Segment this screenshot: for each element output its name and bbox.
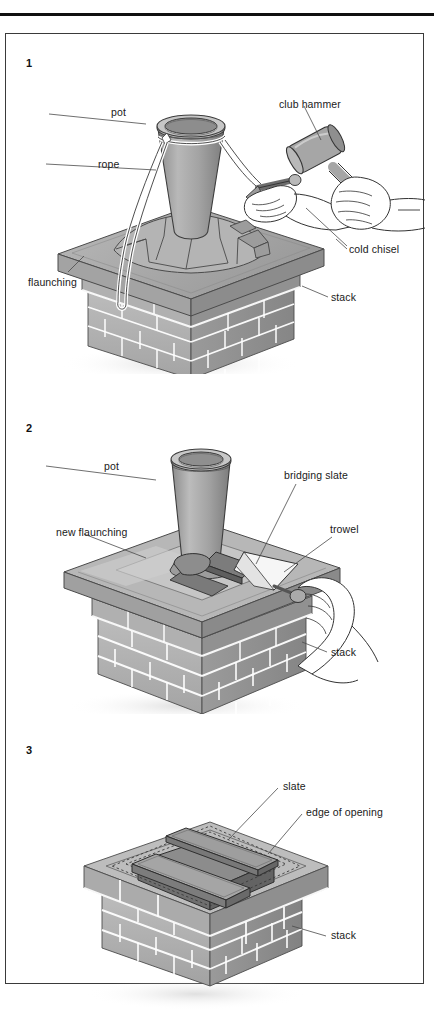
label-stack-2: stack [331, 646, 356, 658]
panel-step-2: 2 [6, 374, 425, 714]
right-hand-holding-hammer-1 [331, 177, 425, 231]
figure-frame: 1 [5, 33, 424, 984]
label-club-hammer-1: club hammer [279, 98, 341, 110]
panel-step-3: 3 [6, 714, 425, 1017]
top-divider-rule [0, 13, 434, 16]
label-cold-chisel-1: cold chisel [349, 243, 399, 255]
label-pot-2: pot [104, 460, 119, 472]
label-rope-1: rope [98, 158, 119, 170]
label-stack-3: stack [331, 929, 356, 941]
illustration-step-1 [6, 34, 425, 374]
illustration-step-2 [6, 374, 425, 714]
label-slate-3: slate [283, 780, 306, 792]
label-new-flaunching-2: new flaunching [56, 526, 127, 538]
label-edge-of-opening-3: edge of opening [306, 806, 383, 818]
label-trowel-2: trowel [330, 523, 359, 535]
label-bridging-slate-2: bridging slate [284, 469, 348, 481]
label-stack-1: stack [331, 291, 356, 303]
panel-step-1: 1 [6, 34, 425, 374]
illustration-step-3 [6, 714, 425, 1017]
label-pot-1: pot [111, 106, 126, 118]
label-flaunching-1: flaunching [28, 276, 77, 288]
